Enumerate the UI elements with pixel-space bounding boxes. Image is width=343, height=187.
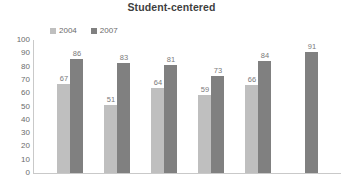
bar-group: 91 [292, 40, 318, 173]
y-tick-80: 80 [4, 63, 30, 71]
bar-group: 5183 [104, 40, 130, 173]
x-axis-line [33, 173, 341, 174]
y-tick-0: 0 [4, 169, 30, 177]
bar-2004 [104, 105, 117, 173]
bar-group: 6786 [57, 40, 83, 173]
y-tick-60: 60 [4, 89, 30, 97]
bar-value-label: 86 [66, 50, 88, 58]
legend-item-2007: 2007 [91, 27, 118, 35]
y-tick-10: 10 [4, 156, 30, 164]
bar-value-label: 83 [113, 54, 135, 62]
bar-2007 [258, 61, 271, 173]
y-tick-70: 70 [4, 76, 30, 84]
bar-group: 6684 [245, 40, 271, 173]
legend-swatch-icon-2007 [91, 28, 97, 34]
bar-2007 [211, 76, 224, 173]
y-tick-50: 50 [4, 103, 30, 111]
chart-title: Student-centered [0, 1, 343, 13]
y-axis-tick-labels: 100 90 80 70 60 50 40 30 20 10 0 [0, 40, 30, 173]
plot-area: 6786518364815973668491 [33, 40, 341, 173]
y-tick-90: 90 [4, 49, 30, 57]
bar-value-label: 84 [254, 52, 276, 60]
bar-value-label: 73 [207, 67, 229, 75]
bar-2004 [151, 88, 164, 173]
bar-2007 [305, 52, 318, 173]
y-tick-20: 20 [4, 142, 30, 150]
bar-2004 [198, 95, 211, 173]
y-tick-30: 30 [4, 129, 30, 137]
bar-2004 [57, 84, 70, 173]
bar-2007 [164, 65, 177, 173]
y-tick-100: 100 [4, 36, 30, 44]
bar-group: 5973 [198, 40, 224, 173]
legend-label-2004: 2004 [59, 27, 77, 35]
bar-chart: Student-centered 2004 2007 100 90 80 70 … [0, 0, 343, 187]
bar-2007 [70, 59, 83, 173]
bar-2004 [245, 85, 258, 173]
legend-label-2007: 2007 [100, 27, 118, 35]
y-tick-40: 40 [4, 116, 30, 124]
legend-item-2004: 2004 [50, 27, 77, 35]
chart-legend: 2004 2007 [50, 25, 118, 36]
bar-group: 6481 [151, 40, 177, 173]
bar-value-label: 91 [301, 43, 323, 51]
legend-swatch-icon-2004 [50, 28, 56, 34]
bar-2007 [117, 63, 130, 173]
bar-value-label: 81 [160, 56, 182, 64]
